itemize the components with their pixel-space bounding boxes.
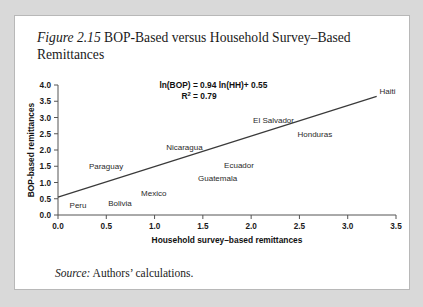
source-label: Source:	[55, 267, 90, 279]
figure-title: Figure 2.15 BOP-Based versus Household S…	[37, 30, 387, 63]
figure-number: Figure 2.15	[37, 30, 101, 45]
figure-card: Figure 2.15 BOP-Based versus Household S…	[14, 15, 410, 290]
source-text: Authors’ calculations.	[90, 267, 193, 279]
figure-source: Source: Authors’ calculations.	[55, 267, 193, 279]
